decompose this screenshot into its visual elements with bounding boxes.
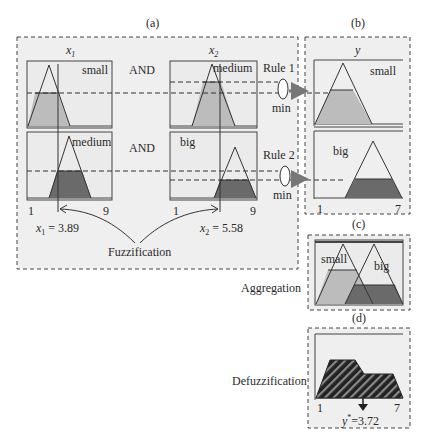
rule2-min-operator (280, 166, 290, 186)
x2-range-min: 1 (173, 205, 179, 217)
panel-c-label: (c) (352, 218, 365, 230)
rule-2-label: Rule 2 (263, 149, 295, 161)
x2-value: x2 = 5.58 (200, 222, 243, 239)
defuzz-range-max: 7 (394, 402, 400, 414)
x1-axis-label: x1 (66, 44, 75, 61)
and-operator-2: AND (129, 142, 155, 154)
and-operator-1: AND (129, 64, 155, 76)
y-small-label: small (370, 65, 396, 77)
rule1-min-operator (278, 79, 288, 99)
x2-medium-label: medium (213, 62, 252, 74)
y-axis-label: y (355, 44, 360, 56)
x2-big-label: big (180, 136, 195, 148)
defuzz-result: y*=3.72 (342, 412, 379, 427)
defuzzification-label: Defuzzification (232, 375, 307, 387)
x2-axis-label: x2 (209, 44, 218, 61)
y-range-max: 7 (395, 203, 401, 215)
aggregation-plot (315, 240, 403, 305)
y-big-label: big (333, 145, 348, 157)
panel-d-label: (d) (352, 312, 366, 324)
panel-a-label: (a) (146, 17, 159, 29)
x1-value: x1 = 3.89 (36, 222, 79, 239)
x1-medium-label: medium (72, 136, 111, 148)
y-range-min: 1 (317, 203, 323, 215)
x1-range-min: 1 (28, 205, 34, 217)
fuzzification-label: Fuzzification (108, 246, 171, 258)
aggregation-label: Aggregation (241, 282, 301, 294)
aggregation-small-label: small (321, 253, 347, 265)
defuzz-range-min: 1 (317, 402, 323, 414)
panel-b-label: (b) (351, 17, 365, 29)
x1-range-max: 9 (103, 205, 109, 217)
rule-1-label: Rule 1 (263, 62, 295, 74)
x1-small-label: small (82, 64, 108, 76)
x2-range-max: 9 (250, 205, 256, 217)
aggregation-big-label: big (374, 260, 389, 272)
rule-1-min-label: min (272, 102, 291, 114)
rule-2-min-label: min (273, 189, 292, 201)
